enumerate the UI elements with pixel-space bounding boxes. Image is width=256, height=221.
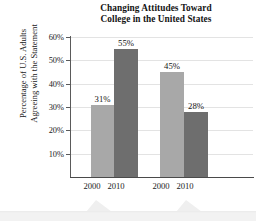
y-tick-labels: 60% 50% 40% 30% 20% 10% xyxy=(33,0,64,221)
y-tick-mark-60 xyxy=(66,37,71,38)
bar-group2-2010 xyxy=(184,112,208,177)
chart-figure: Changing Attitudes Toward College in the… xyxy=(0,0,256,221)
background-watermark xyxy=(0,198,256,221)
x-tick-label-group2-2010: 2010 xyxy=(171,181,199,191)
chart-title-line-2: College in the United States xyxy=(58,14,254,25)
chart-title-line-1: Changing Attitudes Toward xyxy=(58,3,254,14)
gridline-60 xyxy=(71,37,253,38)
bar-group1-2010 xyxy=(114,49,138,177)
y-tick-mark-20 xyxy=(66,130,71,131)
bar-value-group1-2000: 31% xyxy=(84,94,121,104)
plot-area: 31% 55% 45% 28% xyxy=(71,37,253,177)
y-axis-title-line-1: Percentage of U.S. Adults xyxy=(18,0,29,154)
y-tick-label-60: 60% xyxy=(34,33,64,42)
y-tick-mark-50 xyxy=(66,60,71,61)
y-tick-label-30: 30% xyxy=(34,103,64,112)
chart-title: Changing Attitudes Toward College in the… xyxy=(58,3,254,25)
y-tick-mark-10 xyxy=(66,154,71,155)
y-tick-label-50: 50% xyxy=(34,56,64,65)
bar-group2-2000 xyxy=(160,72,184,177)
y-tick-label-40: 40% xyxy=(34,79,64,88)
y-tick-label-10: 10% xyxy=(34,149,64,158)
bar-value-group2-2000: 45% xyxy=(153,61,191,71)
x-axis-line xyxy=(70,177,254,178)
y-tick-mark-40 xyxy=(66,84,71,85)
bar-value-group2-2010: 28% xyxy=(177,101,215,111)
bar-value-group1-2010: 55% xyxy=(107,38,145,48)
y-tick-label-20: 20% xyxy=(34,126,64,135)
x-tick-label-group1-2010: 2010 xyxy=(102,181,130,191)
y-tick-mark-30 xyxy=(66,107,71,108)
bar-group1-2000 xyxy=(91,105,114,177)
